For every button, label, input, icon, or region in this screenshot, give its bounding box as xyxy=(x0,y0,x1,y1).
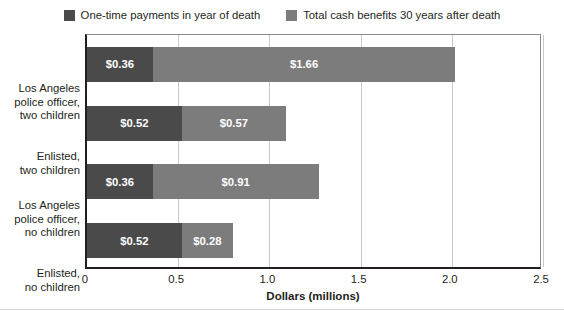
y-axis-category-labels: Los Angeles police officer, two children… xyxy=(0,34,80,269)
chart-legend: One-time payments in year of death Total… xyxy=(0,9,564,21)
bar-row[interactable]: $0.36$1.66 xyxy=(87,47,455,82)
plot-area: $0.36$1.66$0.52$0.57$0.36$0.91$0.52$0.28 xyxy=(85,34,541,269)
y-axis-label-line: police officer, xyxy=(0,96,80,110)
bar-row[interactable]: $0.52$0.28 xyxy=(87,223,233,258)
bar-segment-one-time-payments[interactable]: $0.36 xyxy=(87,47,153,82)
y-axis-label-la-police-officer-no-children: Los Angeles police officer, no children xyxy=(0,199,80,240)
x-axis-tick-label: 1.0 xyxy=(260,273,276,285)
y-axis-label-line: police officer, xyxy=(0,213,80,227)
legend-item-total-cash-benefits: Total cash benefits 30 years after death xyxy=(286,9,500,21)
legend-swatch-icon-total-cash-benefits xyxy=(286,10,297,21)
legend-label-one-time-payments: One-time payments in year of death xyxy=(81,9,261,21)
bar-segment-total-cash-benefits[interactable]: $1.66 xyxy=(153,47,456,82)
y-axis-label-line: Los Angeles xyxy=(0,82,80,96)
gridline xyxy=(543,35,544,267)
x-axis-tick-label: 0 xyxy=(82,273,88,285)
legend-label-total-cash-benefits: Total cash benefits 30 years after death xyxy=(303,9,500,21)
x-axis-tick-label: 1.5 xyxy=(351,273,367,285)
bar-segment-one-time-payments[interactable]: $0.52 xyxy=(87,106,182,141)
y-axis-label-line: two children xyxy=(0,109,80,123)
y-axis-label-enlisted-no-children: Enlisted, no children xyxy=(0,267,80,294)
y-axis-label-la-police-officer-two-children: Los Angeles police officer, two children xyxy=(0,82,80,123)
bar-row[interactable]: $0.52$0.57 xyxy=(87,106,286,141)
bar-segment-total-cash-benefits[interactable]: $0.91 xyxy=(153,164,319,199)
y-axis-label-line: no children xyxy=(0,226,80,240)
y-axis-label-line: two children xyxy=(0,164,80,178)
bar-segment-one-time-payments[interactable]: $0.52 xyxy=(87,223,182,258)
legend-item-one-time-payments: One-time payments in year of death xyxy=(64,9,261,21)
y-axis-label-enlisted-two-children: Enlisted, two children xyxy=(0,150,80,177)
bar-segment-total-cash-benefits[interactable]: $0.57 xyxy=(182,106,286,141)
legend-swatch-icon-one-time-payments xyxy=(64,10,75,21)
bar-row[interactable]: $0.36$0.91 xyxy=(87,164,319,199)
y-axis-label-line: Los Angeles xyxy=(0,199,80,213)
y-axis-label-line: no children xyxy=(0,281,80,295)
y-axis-label-line: Enlisted, xyxy=(0,150,80,164)
x-axis-tick-labels: 00.51.01.52.02.5 xyxy=(85,273,541,289)
x-axis-title: Dollars (millions) xyxy=(85,290,541,302)
x-axis-tick-label: 2.0 xyxy=(442,273,458,285)
y-axis-label-line: Enlisted, xyxy=(0,267,80,281)
x-axis-tick-label: 2.5 xyxy=(533,273,549,285)
bar-segment-total-cash-benefits[interactable]: $0.28 xyxy=(182,223,233,258)
bar-segment-one-time-payments[interactable]: $0.36 xyxy=(87,164,153,199)
x-axis-tick-label: 0.5 xyxy=(168,273,184,285)
stacked-bar-chart: One-time payments in year of death Total… xyxy=(0,0,564,310)
